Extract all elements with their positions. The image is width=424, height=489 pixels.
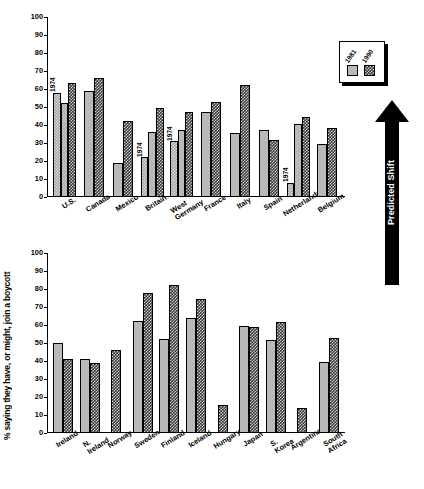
bar-group: N. Ireland [79,253,106,433]
bar-note-1974: 1974 [284,167,291,182]
bar [113,163,123,197]
x-tick-label: Italy [242,200,257,208]
legend-swatch-1981 [347,65,358,76]
y-tick-label: 50 [35,103,43,110]
bar [230,133,240,197]
y-tick-label: 20 [35,157,43,164]
bar-note-1974: 1974 [138,142,145,157]
chart-top: 0102030405060708090100 1974U.S.CanadaMex… [47,17,345,197]
bar-group: France [198,17,227,197]
bar-group: Canada [81,17,110,197]
y-tick-label: 50 [35,339,43,346]
bar [84,91,94,197]
bar-group: 1974Netherlands [286,17,315,197]
x-tick-label: France [213,200,237,208]
bar [329,338,339,433]
x-tick-label-text: Spain [262,195,283,212]
y-tick-label: 10 [35,175,43,182]
bar-group: Japan [238,253,265,433]
x-tick-label: South Africa [331,436,352,452]
bar [297,408,307,433]
bar-group: Hungary [211,253,238,433]
x-tick-label-text: Italy [236,196,253,210]
bar [240,85,250,197]
legend: 1981 1990 [339,41,385,83]
bars-top: 1974U.S.CanadaMexico1974Britain1974West … [47,17,345,197]
bar [143,293,153,433]
bar [249,327,259,433]
bar: 1974 [170,141,178,197]
bar [53,343,63,433]
bar [186,318,196,433]
y-tick-label: 40 [35,121,43,128]
y-tick-label: 80 [35,285,43,292]
bar [317,144,327,197]
x-tick-label-text: Japan [242,430,264,448]
y-tick-label: 60 [35,85,43,92]
y-tick-label: 40 [35,357,43,364]
bar: 1974 [53,93,61,197]
x-tick-label: Belgium [329,200,358,208]
y-axis-label: % saying they have, or might, join a boy… [2,150,12,440]
bar [327,128,337,197]
bar [319,362,329,433]
bar-note-1974: 1974 [167,126,174,141]
bar-group: Italy [227,17,256,197]
bar [156,108,164,197]
bar [185,112,193,198]
bar-group: Finland [158,253,185,433]
y-tick [44,197,47,198]
x-tick-label-text: South Africa [322,430,348,454]
bar [63,359,73,433]
bar [111,350,121,433]
y-tick-label: 90 [35,31,43,38]
bar [133,321,143,433]
bar: 1974 [141,157,149,197]
bars-bottom: IrelandN. IrelandNorwaySwedenFinlandIcel… [47,253,345,433]
y-tick-label: 80 [35,49,43,56]
bar [211,102,221,197]
bar [68,83,76,197]
y-tick-label: 0 [39,193,43,200]
bar-group: Mexico [110,17,139,197]
bar [259,130,269,197]
y-tick-label: 100 [31,13,43,20]
x-tick-label: U.S. [67,200,81,208]
bar [294,124,302,197]
bar-group: Argentina [291,253,318,433]
bar-group: Sweden [132,253,159,433]
bar-group: 1974U.S. [52,17,81,197]
bar: 1974 [287,183,295,197]
bar [266,340,276,433]
bar [269,140,279,197]
y-tick-label: 70 [35,303,43,310]
bar-group: Norway [105,253,132,433]
chart-bottom: 0102030405060708090100 IrelandN. Ireland… [47,253,345,433]
bar [239,326,249,433]
bar [80,359,90,433]
legend-label-1990: 1990 [360,48,374,64]
bar [276,322,286,433]
bar [218,405,228,433]
bar-group: Iceland [185,253,212,433]
bar-group: Ireland [52,253,79,433]
bar [94,78,104,197]
predicted-shift-arrow: Predicted Shift [375,100,409,285]
bar-group: 1974Britain [140,17,169,197]
bar [196,299,206,433]
y-tick-label: 90 [35,267,43,274]
y-tick-label: 60 [35,321,43,328]
bar [148,132,156,197]
bar [90,363,100,433]
bar [159,339,169,434]
x-tick-label-text: U.S. [60,196,76,210]
y-tick-label: 100 [31,249,43,256]
bar [178,130,186,197]
legend-label-1981: 1981 [343,48,357,64]
bar [201,112,211,198]
y-tick-label: 70 [35,67,43,74]
y-tick-label: 30 [35,375,43,382]
bar-note-1974: 1974 [50,77,57,92]
legend-swatch-1990 [364,65,375,76]
y-tick [44,433,47,434]
